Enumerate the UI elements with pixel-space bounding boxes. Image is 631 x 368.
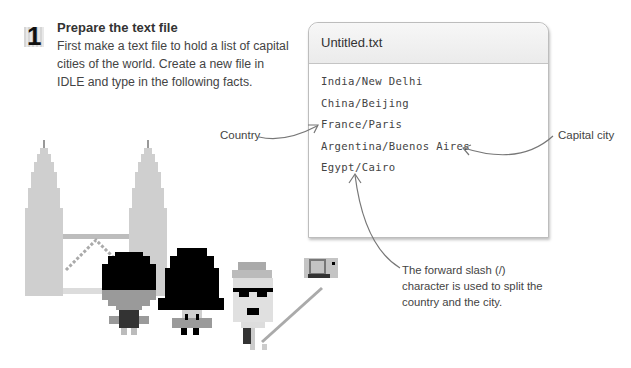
slash-arrow-icon bbox=[355, 175, 400, 268]
character-afro-icon bbox=[102, 252, 156, 335]
left-tower-icon bbox=[25, 140, 63, 296]
character-selfie-icon bbox=[232, 258, 338, 350]
character-black-hair-icon bbox=[158, 248, 224, 335]
country-arrow-icon bbox=[259, 126, 317, 139]
capital-arrow-icon bbox=[464, 136, 553, 155]
pixel-art-illustration bbox=[0, 140, 360, 368]
